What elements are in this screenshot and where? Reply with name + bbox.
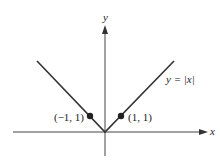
point-right-label: (1, 1)	[128, 111, 152, 124]
abs-value-graph: x y (−1, 1) (1, 1) y = |x|	[0, 0, 222, 164]
x-axis-arrow-icon	[199, 129, 208, 135]
curve-label: y = |x|	[165, 73, 195, 85]
x-axis-label: x	[209, 125, 215, 137]
point-left	[87, 113, 93, 119]
point-right	[118, 113, 124, 119]
y-axis-arrow-icon	[102, 25, 108, 34]
y-axis-label: y	[102, 11, 108, 23]
point-left-label: (−1, 1)	[54, 111, 84, 124]
